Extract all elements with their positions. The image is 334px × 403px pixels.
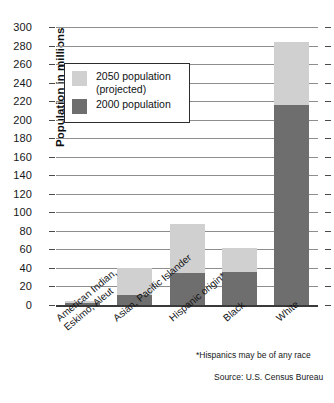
legend-label-2000-line1: 2000 population bbox=[96, 98, 171, 110]
y-axis-tick-label: 100 bbox=[13, 206, 32, 218]
dark-gray-swatch-icon bbox=[72, 99, 87, 114]
y-tick-mark-right bbox=[325, 286, 331, 287]
y-tick-mark-left bbox=[49, 138, 55, 139]
y-tick-mark-right bbox=[325, 157, 331, 158]
footnote-hispanics: *Hispanics may be of any race bbox=[196, 350, 311, 360]
y-axis-tick-label: 20 bbox=[20, 280, 32, 292]
chart-title-ghost bbox=[0, 0, 334, 14]
y-tick-mark-left bbox=[49, 120, 55, 121]
y-axis-tick-label: 200 bbox=[13, 114, 32, 126]
y-axis-tick-label: 60 bbox=[20, 243, 32, 255]
y-tick-mark-left bbox=[49, 212, 55, 213]
y-tick-mark-right bbox=[325, 101, 331, 102]
y-tick-mark-left bbox=[49, 83, 55, 84]
y-axis-tick-label: 80 bbox=[20, 225, 32, 237]
y-tick-mark-right bbox=[325, 27, 331, 28]
y-tick-mark-right bbox=[325, 212, 331, 213]
y-axis-tick-label: 40 bbox=[20, 262, 32, 274]
y-axis-tick-label: 260 bbox=[13, 58, 32, 70]
bar-segment-2050-projected bbox=[274, 42, 309, 105]
legend-item-2050: 2050 population (projected) bbox=[72, 70, 171, 95]
bar-4 bbox=[222, 248, 257, 305]
y-axis-tick-label: 220 bbox=[13, 95, 32, 107]
y-axis-tick-label: 180 bbox=[13, 132, 32, 144]
y-tick-mark-left bbox=[49, 194, 55, 195]
footnote-source: Source: U.S. Census Bureau bbox=[214, 372, 323, 382]
y-tick-mark-left bbox=[49, 46, 55, 47]
y-tick-mark-left bbox=[49, 64, 55, 65]
y-axis-tick-label: 160 bbox=[13, 151, 32, 163]
y-axis-tick-label: 140 bbox=[13, 169, 32, 181]
y-tick-mark-right bbox=[325, 175, 331, 176]
chart-legend: 2050 population (projected) 2000 populat… bbox=[64, 63, 190, 123]
legend-label-2050: 2050 population (projected) bbox=[96, 70, 171, 95]
y-tick-mark-left bbox=[49, 231, 55, 232]
y-tick-mark-left bbox=[49, 286, 55, 287]
y-tick-mark-left bbox=[49, 157, 55, 158]
y-tick-mark-right bbox=[325, 231, 331, 232]
y-tick-mark-left bbox=[49, 101, 55, 102]
y-tick-mark-right bbox=[325, 120, 331, 121]
y-tick-mark-right bbox=[325, 64, 331, 65]
y-tick-mark-right bbox=[325, 268, 331, 269]
bar-segment-2000-population bbox=[274, 105, 309, 305]
bar-segment-2050-projected bbox=[222, 248, 257, 271]
y-tick-mark-left bbox=[49, 27, 55, 28]
legend-label-2000: 2000 population bbox=[96, 98, 171, 111]
y-tick-mark-left bbox=[49, 268, 55, 269]
legend-item-2000: 2000 population bbox=[72, 98, 171, 114]
y-tick-mark-left bbox=[49, 305, 55, 306]
population-bar-chart: Population in millions 02040608010012014… bbox=[0, 0, 334, 403]
y-axis-tick-label: 240 bbox=[13, 77, 32, 89]
y-axis-tick-label: 280 bbox=[13, 40, 32, 52]
y-tick-mark-left bbox=[49, 175, 55, 176]
y-tick-mark-right bbox=[325, 305, 331, 306]
y-tick-mark-right bbox=[325, 138, 331, 139]
y-tick-mark-right bbox=[325, 249, 331, 250]
y-tick-mark-left bbox=[49, 249, 55, 250]
y-tick-mark-right bbox=[325, 46, 331, 47]
y-tick-mark-right bbox=[325, 83, 331, 84]
legend-label-2050-line2: (projected) bbox=[96, 83, 146, 95]
y-tick-mark-right bbox=[325, 194, 331, 195]
legend-label-2050-line1: 2050 population bbox=[96, 70, 171, 82]
bar-5 bbox=[274, 42, 309, 305]
y-axis-tick-label: 300 bbox=[13, 21, 32, 33]
y-axis-tick-label: 0 bbox=[26, 299, 32, 311]
y-axis-tick-label: 120 bbox=[13, 188, 32, 200]
light-gray-swatch-icon bbox=[72, 71, 87, 86]
